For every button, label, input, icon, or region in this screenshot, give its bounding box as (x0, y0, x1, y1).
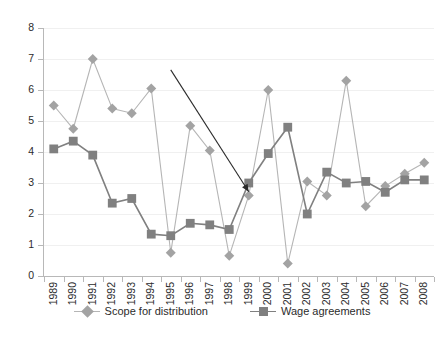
gridline (44, 183, 434, 184)
legend-label-scope: Scope for distribution (105, 305, 208, 317)
y-tick (38, 121, 44, 122)
gridline (44, 28, 434, 29)
gridline (44, 59, 434, 60)
x-tick (181, 277, 182, 282)
x-tick (356, 277, 357, 282)
x-axis-tick-label: 1997 (204, 282, 215, 305)
x-axis-tick-label: 1990 (67, 282, 78, 305)
x-tick (395, 277, 396, 282)
x-axis-tick-label: 2003 (321, 282, 332, 305)
x-tick (103, 277, 104, 282)
chart-legend: Scope for distribution Wage agreements (0, 305, 444, 317)
y-axis-tick-label: 7 (0, 53, 34, 64)
x-tick (278, 277, 279, 282)
x-tick (415, 277, 416, 282)
x-axis-tick-label: 2007 (399, 282, 410, 305)
y-tick (38, 245, 44, 246)
y-axis-tick-label: 2 (0, 208, 34, 219)
x-axis-tick-label: 1994 (145, 282, 156, 305)
y-axis-tick-label: 0 (0, 270, 34, 281)
x-tick (317, 277, 318, 282)
legend-label-wage: Wage agreements (281, 305, 370, 317)
x-tick (298, 277, 299, 282)
x-axis-tick-label: 1993 (126, 282, 137, 305)
x-axis-tick-label: 2005 (360, 282, 371, 305)
x-axis-tick-label: 2008 (418, 282, 429, 305)
legend-marker-square-icon (250, 305, 276, 317)
x-tick (434, 277, 435, 282)
x-tick (220, 277, 221, 282)
x-tick (376, 277, 377, 282)
y-axis-tick-label: 6 (0, 84, 34, 95)
y-tick (38, 90, 44, 91)
gridline (44, 245, 434, 246)
gridline (44, 152, 434, 153)
y-axis-tick-label: 5 (0, 115, 34, 126)
x-tick (44, 277, 45, 282)
y-tick (38, 59, 44, 60)
x-tick (200, 277, 201, 282)
chart-container: 012345678 198919901991199219931994199519… (0, 0, 444, 340)
x-axis-tick-label: 1998 (223, 282, 234, 305)
x-axis-tick-label: 1999 (243, 282, 254, 305)
x-tick (239, 277, 240, 282)
x-axis-tick-label: 2001 (282, 282, 293, 305)
legend-item-wage-agreements[interactable]: Wage agreements (250, 305, 370, 317)
x-tick (142, 277, 143, 282)
x-tick (259, 277, 260, 282)
x-axis-tick-label: 2004 (340, 282, 351, 305)
x-tick (337, 277, 338, 282)
y-axis-tick-label: 8 (0, 22, 34, 33)
x-axis-tick-label: 2000 (262, 282, 273, 305)
x-tick (122, 277, 123, 282)
plot-area (44, 28, 434, 276)
y-tick (38, 214, 44, 215)
x-axis-tick-label: 2006 (379, 282, 390, 305)
x-axis-tick-label: 1989 (48, 282, 59, 305)
x-tick (83, 277, 84, 282)
gridline (44, 90, 434, 91)
y-axis-tick-label: 1 (0, 239, 34, 250)
x-tick (64, 277, 65, 282)
y-tick (38, 183, 44, 184)
x-axis-tick-label: 1995 (165, 282, 176, 305)
legend-item-scope-for-distribution[interactable]: Scope for distribution (74, 305, 208, 317)
x-axis-tick-label: 1996 (184, 282, 195, 305)
x-axis-tick-label: 1991 (87, 282, 98, 305)
x-axis-tick-label: 1992 (106, 282, 117, 305)
x-axis-tick-label: 2002 (301, 282, 312, 305)
y-tick (38, 28, 44, 29)
y-axis-tick-label: 3 (0, 177, 34, 188)
gridline (44, 214, 434, 215)
legend-marker-diamond-icon (74, 305, 100, 317)
gridline (44, 121, 434, 122)
y-tick (38, 152, 44, 153)
y-axis-tick-label: 4 (0, 146, 34, 157)
x-tick (161, 277, 162, 282)
